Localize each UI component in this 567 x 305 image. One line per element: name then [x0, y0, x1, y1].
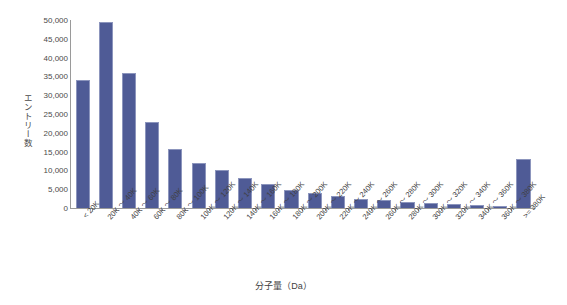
bar-slot — [117, 20, 140, 208]
x-label-slot: 140K ～ 160K — [232, 212, 255, 272]
y-axis-tick-label: 25,000 — [30, 110, 68, 119]
x-label-slot: 220K ～ 240K — [325, 212, 348, 272]
x-axis-title: 分子量（Da） — [0, 279, 567, 292]
molecular-weight-distribution-chart: エントリー数 50,00045,00040,00035,00030,00025,… — [0, 0, 567, 305]
x-label-slot: 280K ～ 300K — [395, 212, 418, 272]
x-label-slot: 340K ～ 360K — [464, 212, 487, 272]
x-label-slot: 260K ～ 280K — [372, 212, 395, 272]
y-axis-tick-label: 30,000 — [30, 91, 68, 100]
x-label-slot: 80K ～ 100K — [163, 212, 186, 272]
bar[interactable] — [99, 22, 113, 208]
y-axis-tick-label: 20,000 — [30, 128, 68, 137]
x-label-slot: 120K ～ 140K — [209, 212, 232, 272]
x-label-slot: 240K ～ 260K — [348, 212, 371, 272]
y-axis-tick-label: 35,000 — [30, 72, 68, 81]
x-label-slot: 300K ～ 320K — [418, 212, 441, 272]
bar-series — [71, 20, 535, 208]
x-label-slot: 200K ～ 220K — [302, 212, 325, 272]
y-axis-tick-label: 10,000 — [30, 166, 68, 175]
x-axis-tick-labels: < 20K20K ～ 40K40K ～ 60K60K ～ 80K80K ～ 10… — [70, 212, 534, 272]
x-label-slot: 100K ～ 120K — [186, 212, 209, 272]
x-label-slot: 360K ～ 380K — [488, 212, 511, 272]
bar-slot — [94, 20, 117, 208]
y-axis-tick-label: 5,000 — [30, 185, 68, 194]
x-label-slot: 40K ～ 60K — [116, 212, 139, 272]
bar-slot — [164, 20, 187, 208]
plot-area — [70, 20, 535, 209]
y-axis-tick-label: 0 — [30, 204, 68, 213]
x-label-slot: 320K ～ 340K — [441, 212, 464, 272]
bar[interactable] — [76, 80, 90, 208]
x-label-slot: 60K ～ 80K — [140, 212, 163, 272]
x-label-slot: < 20K — [70, 212, 93, 272]
y-axis-tick-label: 50,000 — [30, 16, 68, 25]
y-axis-tick-label: 45,000 — [30, 34, 68, 43]
y-axis-tick-labels: 50,00045,00040,00035,00030,00025,00020,0… — [30, 0, 68, 305]
x-label-slot: 160K ～ 180K — [256, 212, 279, 272]
x-label-slot: 20K ～ 40K — [93, 212, 116, 272]
x-label-slot: 180K ～ 200K — [279, 212, 302, 272]
x-label-slot: >= 380K — [511, 212, 534, 272]
bar-slot — [187, 20, 210, 208]
bar-slot — [141, 20, 164, 208]
y-axis-tick-label: 15,000 — [30, 147, 68, 156]
y-axis-tick-label: 40,000 — [30, 53, 68, 62]
bar-slot — [71, 20, 94, 208]
